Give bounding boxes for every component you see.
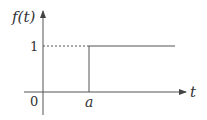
plot-canvas: f(t) 1 0 a t <box>0 0 207 120</box>
origin-label: 0 <box>30 94 38 109</box>
step-position-label: a <box>85 94 93 110</box>
step-function-diagram: f(t) 1 0 a t <box>0 0 207 120</box>
x-axis-label: t <box>190 83 197 101</box>
level-one-label: 1 <box>30 39 38 54</box>
y-axis-label: f(t) <box>11 8 35 26</box>
